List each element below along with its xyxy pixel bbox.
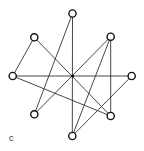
hub-group (71, 75, 74, 78)
hub-dot (71, 75, 74, 78)
node-upper-left (31, 34, 38, 41)
edge-top-lower-left (34, 14, 72, 115)
node-right (128, 72, 135, 79)
graph-diagram (0, 0, 144, 151)
node-top (69, 10, 76, 17)
node-bottom (69, 132, 76, 139)
node-upper-right (107, 33, 114, 40)
node-lower-right (107, 112, 114, 119)
edge-upper-left-left (13, 37, 35, 76)
edge-left-lower-right (13, 76, 111, 116)
figure-label: c (9, 133, 14, 143)
node-lower-left (31, 111, 38, 118)
edge-upper-right-bottom (72, 37, 110, 136)
node-left (9, 72, 16, 79)
